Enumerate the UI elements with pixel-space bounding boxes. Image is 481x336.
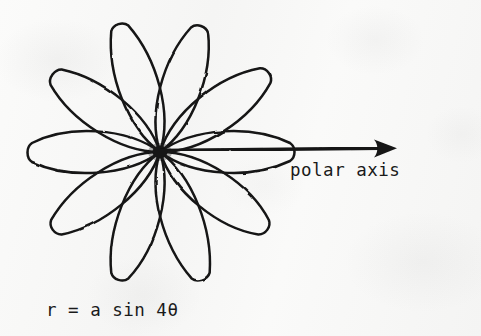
right-arrow-icon <box>160 140 397 158</box>
equation-label: r = a sin 4θ <box>46 300 178 320</box>
figure-page: polar axis r = a sin 4θ <box>0 0 481 336</box>
polar-axis-label: polar axis <box>290 160 400 180</box>
rose-curve-figure <box>0 0 481 336</box>
